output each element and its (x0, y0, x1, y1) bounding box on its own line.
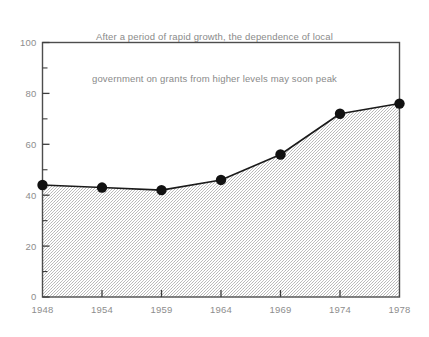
y-tick-label: 80 (26, 88, 37, 99)
x-tick-label: 1959 (151, 304, 173, 315)
line-chart-svg: 020406080100 194819541959196419691974197… (0, 0, 429, 337)
y-tick-label: 100 (20, 37, 36, 48)
data-point-marker (275, 149, 285, 159)
data-point-marker (216, 175, 226, 185)
chart-container: After a period of rapid growth, the depe… (0, 0, 429, 337)
x-tick-label: 1978 (389, 304, 411, 315)
y-tick-label: 60 (26, 139, 37, 150)
data-point-marker (37, 180, 47, 190)
x-tick-label: 1954 (91, 304, 113, 315)
x-tick-label: 1948 (32, 304, 54, 315)
x-tick-label: 1974 (329, 304, 351, 315)
x-tick-label: 1964 (210, 304, 232, 315)
y-tick-label: 40 (26, 190, 37, 201)
plot-area: 020406080100 194819541959196419691974197… (0, 0, 429, 337)
data-point-marker (335, 109, 345, 119)
data-point-marker (97, 182, 107, 192)
data-point-marker (156, 185, 166, 195)
data-point-marker (394, 98, 404, 108)
y-tick-label: 20 (26, 241, 37, 252)
y-tick-label: 0 (31, 291, 36, 302)
x-tick-label: 1969 (270, 304, 292, 315)
area-fill (43, 104, 400, 297)
